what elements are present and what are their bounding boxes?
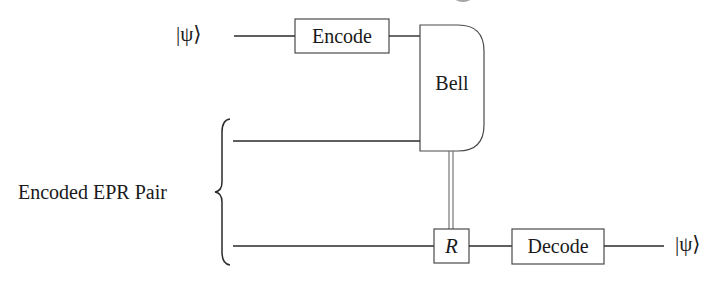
bell-measurement-label: Bell [420,73,484,93]
teleportation-circuit-diagram: |ψ⟩ Encode Bell R Decode |ψ⟩ Encoded EPR… [0,0,723,282]
input-state-label: |ψ⟩ [176,24,202,45]
encode-gate-label: Encode [295,26,389,46]
recovery-gate-label: R [434,236,469,257]
encoded-epr-pair-label: Encoded EPR Pair [18,182,167,202]
output-state-label: |ψ⟩ [675,234,701,255]
decode-gate-label: Decode [512,236,604,256]
epr-pair-brace [215,119,230,265]
